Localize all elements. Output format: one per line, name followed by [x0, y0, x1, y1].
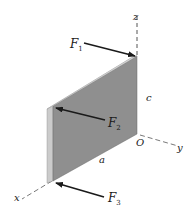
plate-force-diagram: z y x O c a F1 F2 F3	[0, 0, 194, 219]
y-axis	[140, 135, 178, 146]
x-axis-label: x	[14, 192, 20, 203]
y-axis-label: y	[176, 142, 183, 153]
force-f3-label: F3	[107, 191, 121, 207]
dimension-c-label: c	[146, 92, 152, 103]
force-f3-arrow	[56, 183, 104, 197]
dimension-a-label: a	[99, 154, 105, 165]
force-f1-arrow	[84, 43, 135, 56]
plate-face	[53, 56, 137, 181]
force-f1-label: F1	[69, 37, 83, 53]
origin-label: O	[136, 137, 144, 148]
x-axis	[22, 181, 52, 199]
z-axis-label: z	[132, 11, 139, 22]
